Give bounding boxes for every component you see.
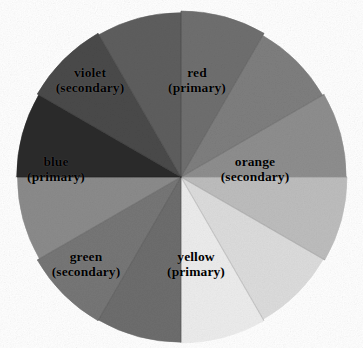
color-wheel-figure: red (primary) orange (secondary) yellow … xyxy=(0,0,363,348)
color-wheel-diagram xyxy=(0,0,363,348)
